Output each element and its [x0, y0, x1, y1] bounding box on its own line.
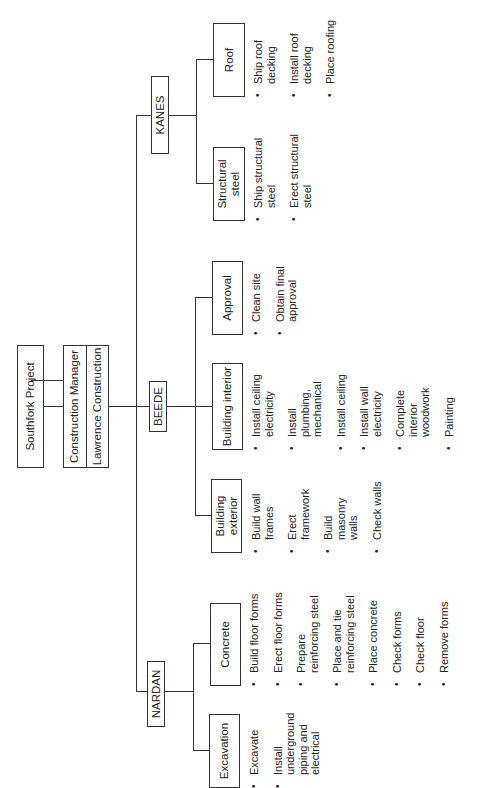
kanes-sub-bus — [196, 59, 197, 184]
root-project-title: Southfork Project — [24, 362, 37, 450]
task-item: Clean site — [250, 255, 263, 335]
task-item: Install roof decking — [288, 7, 313, 97]
task-item: Erect structural steel — [288, 131, 313, 221]
package-name: Approval — [221, 275, 234, 320]
task-list-excavation: Excavate Install underground piping and … — [248, 714, 333, 788]
task-list-building-interior: Install ceiling electricity Install plum… — [250, 358, 466, 450]
contractor-name: NARDAN — [150, 670, 163, 719]
package-name: Roof — [223, 48, 236, 72]
task-item: Excavate — [248, 714, 261, 788]
task-item: Install underground piping and electrica… — [272, 714, 322, 788]
contractor-kanes-box: KANES — [151, 76, 169, 154]
connector — [195, 515, 211, 516]
contractor-nardan-box: NARDAN — [147, 661, 165, 727]
task-list-approval: Clean site Obtain final approval — [250, 255, 310, 335]
task-item: Complete interior woodwork — [394, 358, 432, 450]
task-list-roof: Ship roof decking Install roof decking P… — [252, 7, 348, 97]
connector — [136, 115, 151, 116]
main-bus-line — [136, 115, 137, 692]
package-roof-box: Roof — [213, 23, 245, 97]
connector — [31, 380, 63, 381]
manager-role: Construction Manager — [64, 346, 86, 467]
task-item: Install wall electricity — [358, 358, 383, 450]
task-item: Build masonry walls — [322, 471, 360, 553]
task-item: Erect framework — [286, 471, 311, 553]
connector — [43, 406, 63, 407]
package-name: Concrete — [219, 621, 232, 668]
task-item: Build wall frames — [250, 471, 275, 553]
package-structural-steel-box: Structural steel — [213, 147, 245, 221]
task-item: Painting — [443, 358, 456, 450]
task-item: Erect floor forms — [272, 586, 285, 686]
manager-name: Lawrence Construction — [86, 346, 109, 467]
package-name: Building interior — [221, 367, 234, 446]
root-project-box: Southfork Project — [17, 345, 44, 468]
connector — [193, 643, 210, 644]
task-item: Check walls — [371, 471, 384, 553]
task-item: Build floor forms — [248, 586, 261, 686]
task-item: Install ceiling electricity — [250, 358, 275, 450]
connector — [167, 406, 195, 407]
contractor-name: BEEDE — [152, 387, 165, 426]
org-chart: Southfork Project Construction Manager L… — [0, 0, 493, 788]
package-approval-box: Approval — [212, 261, 243, 335]
task-list-concrete: Build floor forms Erect floor forms Prep… — [248, 586, 461, 686]
package-concrete-box: Concrete — [210, 603, 241, 686]
connector — [165, 691, 193, 692]
task-item: Remove forms — [438, 586, 451, 686]
task-item: Place concrete — [367, 586, 380, 686]
task-item: Install ceiling — [335, 358, 348, 450]
connector — [196, 183, 213, 184]
nardan-sub-bus — [193, 643, 194, 751]
task-item: Check floor — [414, 586, 427, 686]
package-building-interior-box: Building interior — [212, 363, 243, 450]
package-name: Building exterior — [214, 480, 240, 552]
package-excavation-box: Excavation — [209, 714, 240, 788]
connector — [136, 691, 147, 692]
task-item: Check forms — [391, 586, 404, 686]
task-item: Prepare reinforcing steel — [295, 586, 320, 686]
connector — [169, 115, 196, 116]
connector — [195, 406, 212, 407]
package-building-exterior-box: Building exterior — [211, 479, 242, 553]
connector — [136, 406, 149, 407]
task-item: Ship structural steel — [252, 131, 277, 221]
package-name: Structural steel — [216, 148, 242, 220]
package-name: Excavation — [218, 723, 231, 779]
task-list-structural-steel: Ship structural steel Erect structural s… — [252, 131, 324, 221]
task-item: Install plumbing, mechanical — [286, 358, 324, 450]
task-list-building-exterior: Build wall frames Erect framework Build … — [250, 471, 394, 553]
task-item: Place and tie reinforcing steel — [331, 586, 356, 686]
connector — [196, 59, 213, 60]
construction-manager-box: Construction Manager Lawrence Constructi… — [63, 345, 109, 468]
connector — [193, 750, 209, 751]
contractor-beede-box: BEEDE — [149, 381, 167, 432]
contractor-name: KANES — [154, 96, 167, 135]
connector — [195, 297, 212, 298]
connector — [109, 406, 136, 407]
task-item: Obtain final approval — [274, 255, 299, 335]
task-item: Place roofing — [324, 7, 337, 97]
task-item: Ship roof decking — [252, 7, 277, 97]
